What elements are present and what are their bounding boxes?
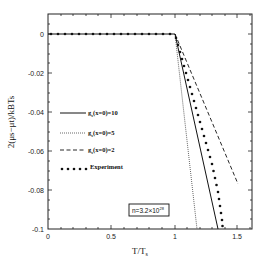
x-tick-label: 1 bbox=[173, 233, 177, 240]
svg-text:gs(x=0)=2: gs(x=0)=2 bbox=[88, 146, 115, 155]
legend-item-g10: gs(x=0)=10 bbox=[60, 109, 118, 118]
svg-text:Experiment: Experiment bbox=[90, 163, 124, 170]
svg-text:gs(x=0)=10: gs(x=0)=10 bbox=[88, 109, 118, 118]
x-ticks bbox=[61, 14, 250, 229]
y-axis-label: 2(μs−μt)/kBTs bbox=[6, 95, 16, 148]
x-tick-label: 1.5 bbox=[232, 233, 242, 240]
x-axis-label: T/Ts bbox=[132, 246, 149, 257]
series-experiment-dots bbox=[50, 33, 224, 228]
svg-text:gs(x=0)=5: gs(x=0)=5 bbox=[88, 129, 115, 138]
legend-item-g2: gs(x=0)=2 bbox=[60, 146, 115, 155]
x-tick-label: 0 bbox=[46, 233, 50, 240]
series-g10-line bbox=[175, 34, 218, 229]
y-tick-label: -0.06 bbox=[28, 148, 44, 155]
y-tick-label: 0 bbox=[40, 31, 44, 38]
y-tick-label: -0.1 bbox=[32, 226, 44, 233]
series-g5-line bbox=[175, 34, 197, 229]
series-lines bbox=[48, 34, 238, 229]
y-tick-label: -0.02 bbox=[28, 70, 44, 77]
chart: 0 -0.02 -0.04 -0.06 -0.08 -0.1 0 0.5 1 1… bbox=[0, 0, 266, 263]
legend-item-g5: gs(x=0)=5 bbox=[60, 129, 115, 138]
y-tick-label: -0.04 bbox=[28, 109, 44, 116]
y-ticks bbox=[48, 24, 252, 219]
series-g2-line bbox=[175, 34, 238, 184]
legend: gs(x=0)=10 gs(x=0)=5 gs(x=0)=2 Experimen… bbox=[60, 109, 124, 170]
y-tick-label: -0.08 bbox=[28, 187, 44, 194]
legend-item-experiment: Experiment bbox=[61, 163, 124, 170]
density-annotation: n=3.2×1028 bbox=[129, 204, 169, 216]
x-tick-label: 0.5 bbox=[106, 233, 116, 240]
plot-frame bbox=[48, 14, 252, 229]
